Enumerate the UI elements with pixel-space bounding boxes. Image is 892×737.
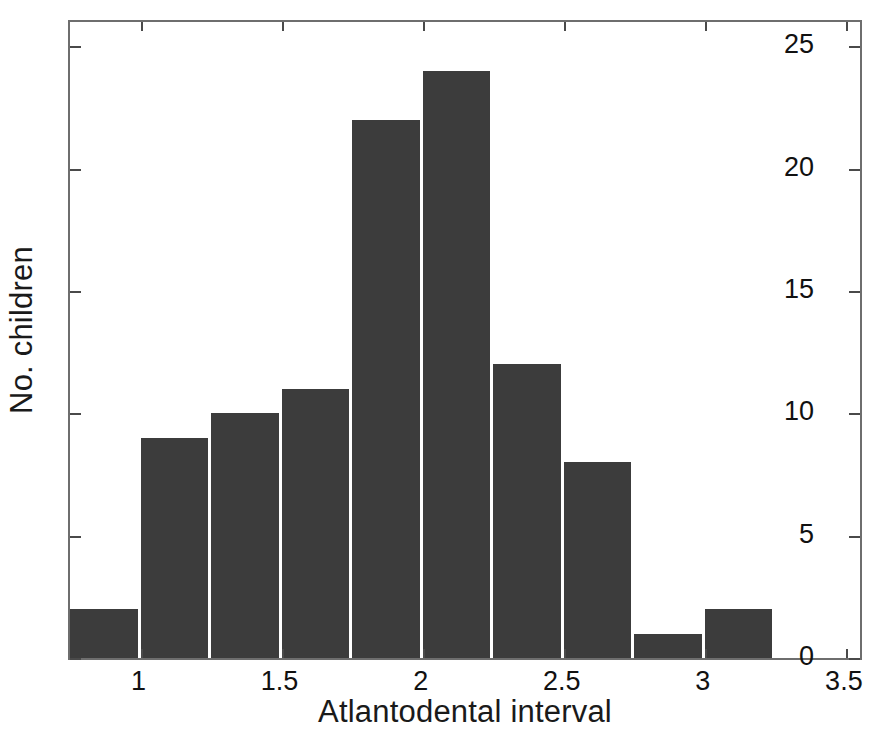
y-axis-tick-label: 25 xyxy=(784,29,814,60)
y-axis-tick xyxy=(70,46,81,48)
y-axis-tick xyxy=(70,169,81,171)
x-axis-tick xyxy=(705,649,707,658)
y-axis-tick-right xyxy=(849,169,860,171)
x-axis-tick-top xyxy=(564,22,566,31)
y-axis-tick-right xyxy=(849,413,860,415)
x-axis-tick xyxy=(564,649,566,658)
plot-inner xyxy=(70,22,860,658)
y-axis-tick-label: 20 xyxy=(784,151,814,182)
x-axis-title: Atlantodental interval xyxy=(68,694,862,730)
histogram-bar xyxy=(141,438,209,658)
y-axis-tick-label: 15 xyxy=(784,274,814,305)
x-axis-tick xyxy=(423,649,425,658)
plot-area xyxy=(68,20,862,660)
x-axis-tick xyxy=(846,649,848,658)
y-axis-tick xyxy=(70,291,81,293)
x-axis-tick xyxy=(141,649,143,658)
x-axis-tick xyxy=(282,649,284,658)
histogram-bar xyxy=(423,71,491,658)
y-axis-tick-right xyxy=(849,536,860,538)
x-axis-tick-label: 3 xyxy=(695,666,710,697)
histogram-bar xyxy=(70,609,138,658)
x-axis-tick-label: 2 xyxy=(413,666,428,697)
y-axis-tick-label: 10 xyxy=(784,396,814,427)
histogram-figure: No. children Atlantodental interval 0510… xyxy=(0,0,892,737)
x-axis-tick-label: 3.5 xyxy=(825,666,863,697)
x-axis-tick-label: 1.5 xyxy=(261,666,299,697)
histogram-bar xyxy=(352,120,420,658)
histogram-bar xyxy=(282,389,350,658)
histogram-bar xyxy=(705,609,773,658)
y-axis-tick xyxy=(70,658,81,660)
histogram-bar xyxy=(493,364,561,658)
y-axis-title: No. children xyxy=(0,0,44,660)
y-axis-tick xyxy=(70,413,81,415)
x-axis-tick-top xyxy=(846,22,848,31)
y-axis-tick-right xyxy=(849,291,860,293)
y-axis-tick-label: 5 xyxy=(799,518,814,549)
x-axis-tick-label: 1 xyxy=(131,666,146,697)
y-axis-tick-right xyxy=(849,658,860,660)
histogram-bar xyxy=(564,462,632,658)
x-axis-tick-top xyxy=(282,22,284,31)
y-axis-tick xyxy=(70,536,81,538)
x-axis-tick-top xyxy=(423,22,425,31)
histogram-bar xyxy=(634,634,702,658)
y-axis-tick-right xyxy=(849,46,860,48)
x-axis-tick-top xyxy=(141,22,143,31)
x-axis-tick-label: 2.5 xyxy=(543,666,581,697)
histogram-bar xyxy=(211,413,279,658)
y-axis-tick-label: 0 xyxy=(799,641,814,672)
x-axis-tick-top xyxy=(705,22,707,31)
